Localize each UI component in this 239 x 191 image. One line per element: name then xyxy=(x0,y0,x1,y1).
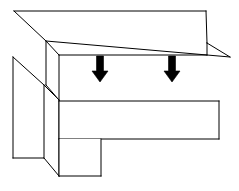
main-beam xyxy=(59,101,219,139)
figure-root xyxy=(0,0,239,191)
lower-block xyxy=(59,139,101,176)
main-beam-face xyxy=(59,101,219,139)
isometric-assembly-diagram xyxy=(0,0,239,191)
lower-block-face xyxy=(59,139,101,176)
